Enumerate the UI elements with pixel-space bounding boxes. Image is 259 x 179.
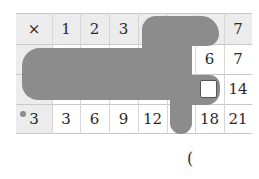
header-cell: 1 (52, 13, 80, 44)
table-cell: 3 (52, 104, 80, 133)
table-cell: 6 (80, 104, 109, 133)
times-symbol: × (16, 13, 52, 44)
table-cell: 21 (224, 104, 252, 133)
row-label: 3 (16, 104, 52, 133)
header-cell: 7 (224, 13, 252, 44)
table-cell: 7 (224, 44, 252, 74)
answer-box[interactable] (200, 80, 217, 98)
table-cell: 14 (224, 74, 252, 104)
answer-paren: ( (187, 149, 193, 168)
table-cell: 6 (195, 44, 224, 74)
header-cell: 3 (109, 13, 138, 44)
header-cell: 2 (80, 13, 109, 44)
table-cell: 18 (195, 104, 224, 133)
table-cell: 9 (109, 104, 138, 133)
table-cell: 12 (138, 104, 167, 133)
